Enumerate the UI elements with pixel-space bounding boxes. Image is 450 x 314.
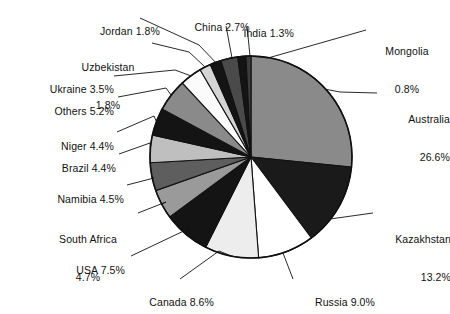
label-others: Others 5.2% bbox=[20, 92, 114, 130]
label-others-line1: Others 5.2% bbox=[55, 105, 114, 117]
pie-slice-australia[interactable] bbox=[251, 56, 352, 167]
label-canada-line1: Canada 8.6% bbox=[149, 296, 214, 308]
leader-line-south-africa bbox=[138, 202, 166, 213]
pie-chart-page: Jordan 1.8% China 2.7% India 1.3% Mongol… bbox=[0, 0, 450, 314]
label-namibia-line1: Namibia 4.5% bbox=[57, 193, 124, 205]
leader-line-russia bbox=[283, 252, 293, 279]
label-canada: Canada 8.6% bbox=[118, 283, 214, 314]
label-south-africa-line1: South Africa bbox=[42, 233, 134, 246]
label-india-line1: India 1.3% bbox=[243, 27, 294, 39]
label-brazil-line1: Brazil 4.4% bbox=[62, 162, 116, 174]
label-australia: Australia 26.6% bbox=[382, 88, 450, 188]
label-jordan-line1: Jordan 1.8% bbox=[100, 25, 160, 37]
label-russia-line1: Russia 9.0% bbox=[315, 296, 375, 308]
label-usa-line1: USA 7.5% bbox=[76, 264, 125, 276]
leader-line-usa bbox=[131, 228, 190, 256]
label-usa: USA 7.5% bbox=[47, 251, 125, 289]
label-kazakhstan: Kazakhstan 13.2% bbox=[377, 208, 450, 308]
leader-line-brazil bbox=[119, 143, 150, 154]
label-india: India 1.3% bbox=[192, 14, 294, 52]
label-kazakhstan-line1: Kazakhstan bbox=[377, 233, 450, 246]
label-mongolia-line1: Mongolia bbox=[370, 45, 444, 58]
pie-slices-group bbox=[150, 56, 352, 258]
label-australia-line1: Australia bbox=[382, 113, 450, 126]
label-russia: Russia 9.0% bbox=[279, 283, 375, 314]
label-kazakhstan-line2: 13.2% bbox=[377, 271, 450, 284]
leader-line-canada bbox=[180, 251, 232, 279]
leader-line-namibia bbox=[127, 177, 154, 185]
label-australia-line2: 26.6% bbox=[382, 151, 450, 164]
